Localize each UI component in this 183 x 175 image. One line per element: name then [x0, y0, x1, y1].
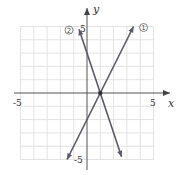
x-tick-label-5: 5 — [150, 98, 156, 108]
x-axis-arrow — [163, 90, 170, 96]
x-axis-label: x — [168, 97, 175, 110]
line-chart: x y -5 5 5 -5 12 — [0, 0, 183, 175]
series-2-arrow-start — [117, 150, 122, 157]
y-axis-arrow — [84, 8, 90, 15]
x-tick-label-neg5: -5 — [13, 98, 22, 108]
series-layer: 12 — [65, 24, 148, 160]
intersection-point — [98, 91, 102, 95]
series-label-1: 1 — [140, 24, 148, 33]
series-label-text: 2 — [67, 27, 71, 35]
y-axis-label: y — [92, 3, 100, 16]
series-label-2: 2 — [65, 26, 73, 35]
series-label-text: 1 — [141, 24, 145, 32]
y-tick-label-neg5: -5 — [74, 155, 83, 165]
